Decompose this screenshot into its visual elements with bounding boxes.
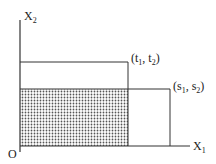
x-axis-label: X1 <box>193 140 206 152</box>
y-axis-label: X2 <box>24 10 37 22</box>
origin-label: O <box>8 148 17 160</box>
shaded-region <box>20 89 128 146</box>
point-t-label: (t1, t2) <box>131 52 160 64</box>
point-s-label: (s1, s2) <box>173 80 204 92</box>
